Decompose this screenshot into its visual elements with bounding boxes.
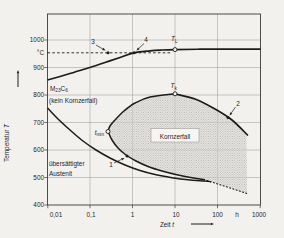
Tk-open-circle [173,92,177,96]
y-tick-label: 1000 [30,36,45,43]
point-4-dot [133,51,136,54]
y-tick-label: 700 [33,119,44,126]
y-tick-label: 500 [33,174,44,181]
x-tick-label: 100 [212,211,223,218]
annotation-label: (kein Kornzerfall) [49,97,97,105]
annotation-label: Kornzerfall [160,133,191,140]
point-3-dot [107,51,110,54]
y-tick-label: 800 [33,91,44,98]
figure-page: 0,010,1110100h10001000°C9008007006005004… [0,0,284,238]
annotation-label: 1 [109,161,113,168]
x-tick-label: 1000 [252,211,267,218]
annotation-label: Zeit t [160,221,174,228]
TL-open-circle [173,48,177,52]
x-tick-label: h [235,211,239,218]
x-tick-label: 1 [131,211,135,218]
x-tick-label: 0,1 [87,211,96,218]
y-tick-label: 400 [33,201,44,208]
point-2-dot [227,116,230,119]
annotation-label: übersättigter [49,160,85,168]
x-tick-label: 0,01 [50,211,63,218]
annotation-label: Temperatur T [3,123,11,162]
y-tick-label: 600 [33,146,44,153]
tmin-open-circle [106,130,110,134]
point-1-dot [126,155,129,158]
annotation-label: Austenit [49,170,72,177]
annotation-label: 4 [144,36,148,43]
y-tick-label: °C [37,49,45,56]
time-temperature-kornzerfall-diagram: 0,010,1110100h10001000°C9008007006005004… [0,0,284,238]
annotation-label: 2 [236,100,240,107]
annotation-label: 3 [91,38,95,45]
x-tick-label: 10 [172,211,180,218]
y-tick-label: 900 [33,64,44,71]
